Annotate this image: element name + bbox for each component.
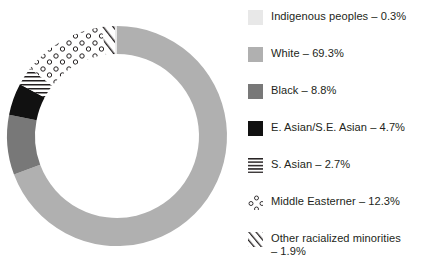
legend-label-white: White – 69.3% bbox=[271, 47, 344, 60]
legend-item-indigenous-peoples[interactable]: Indigenous peoples – 0.3% bbox=[248, 10, 406, 25]
solid-swatch-easian-icon bbox=[248, 121, 263, 136]
legend-label-black: Black – 8.8% bbox=[271, 84, 336, 97]
legend-label-s-asian: S. Asian – 2.7% bbox=[271, 158, 350, 171]
legend-label-e-asian-se-asian: E. Asian/S.E. Asian – 4.7% bbox=[271, 121, 405, 134]
horizontal-lines-swatch-icon bbox=[248, 158, 263, 173]
small-circles-swatch-icon bbox=[248, 195, 263, 210]
donut-slice[interactable] bbox=[30, 27, 106, 86]
legend-label-middle-easterner: Middle Easterner – 12.3% bbox=[271, 195, 400, 208]
legend-label-other-racialized-minorities: Other racialized minorities – 1.9% bbox=[271, 232, 401, 259]
donut-slice[interactable] bbox=[7, 115, 40, 175]
legend-label-indigenous-peoples: Indigenous peoples – 0.3% bbox=[271, 10, 406, 23]
donut-chart-plot-area bbox=[0, 0, 240, 272]
legend-item-s-asian[interactable]: S. Asian – 2.7% bbox=[248, 158, 350, 173]
solid-swatch-white-icon bbox=[248, 47, 263, 62]
legend-item-other-racialized-minorities[interactable]: Other racialized minorities – 1.9% bbox=[248, 232, 401, 259]
legend-item-white[interactable]: White – 69.3% bbox=[248, 47, 344, 62]
legend-item-e-asian-se-asian[interactable]: E. Asian/S.E. Asian – 4.7% bbox=[248, 121, 405, 136]
legend-item-black[interactable]: Black – 8.8% bbox=[248, 84, 336, 99]
solid-swatch-black-icon bbox=[248, 84, 263, 99]
donut-slice-group bbox=[7, 26, 227, 246]
diagonal-lines-swatch-icon bbox=[248, 232, 263, 247]
donut-chart-figure: Indigenous peoples – 0.3% White – 69.3% … bbox=[0, 0, 430, 272]
solid-swatch-indigenous-icon bbox=[248, 10, 263, 25]
chart-legend: Indigenous peoples – 0.3% White – 69.3% … bbox=[248, 0, 430, 272]
legend-item-middle-easterner[interactable]: Middle Easterner – 12.3% bbox=[248, 195, 400, 210]
donut-chart-svg bbox=[0, 0, 240, 272]
